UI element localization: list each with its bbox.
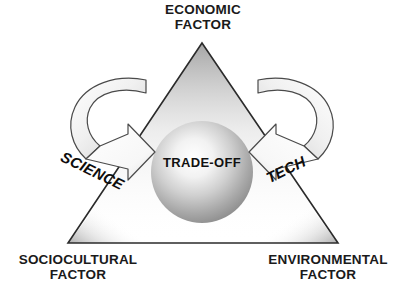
label-economic-factor: ECONOMIC FACTOR bbox=[121, 2, 285, 32]
diagram-canvas bbox=[0, 0, 405, 294]
trade-off-sphere bbox=[151, 121, 253, 223]
label-trade-off: TRADE-OFF bbox=[140, 155, 264, 170]
trade-off-triangle-diagram: ECONOMIC FACTOR SOCIOCULTURAL FACTOR ENV… bbox=[0, 0, 405, 294]
label-environmental-factor: ENVIRONMENTAL FACTOR bbox=[253, 252, 403, 282]
label-sociocultural-factor: SOCIOCULTURAL FACTOR bbox=[2, 252, 154, 282]
center-sphere-group bbox=[151, 121, 253, 223]
